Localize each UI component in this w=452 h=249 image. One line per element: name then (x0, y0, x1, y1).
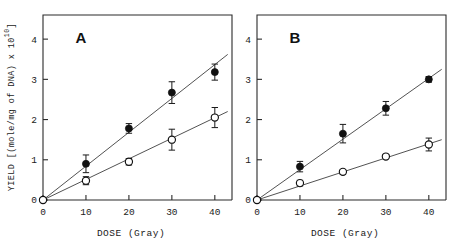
y-tick-label: 0 (245, 195, 251, 206)
data-point-filled (168, 89, 175, 96)
x-tick-label: 20 (337, 207, 349, 218)
plot-frame (43, 15, 232, 200)
y-tick-label: 3 (31, 75, 37, 86)
y-tick-label: 1 (245, 155, 251, 166)
x-tick-label: 20 (123, 207, 135, 218)
data-point-open (382, 153, 389, 160)
panel-b-x-axis-title: DOSE (Gray) (238, 228, 452, 239)
panel-a-plot: 01234010203040A (24, 0, 238, 249)
data-point-open (82, 177, 89, 184)
x-tick-label: 40 (423, 207, 435, 218)
y-tick-label: 4 (245, 35, 251, 46)
data-point-filled (296, 163, 303, 170)
y-axis-label-container: YIELD [(mole/mg of DNA) x 1010] (0, 0, 24, 215)
data-point-open (125, 158, 132, 165)
panel-a: 01234010203040A DOSE (Gray) (24, 0, 238, 249)
y-tick-label: 4 (31, 35, 37, 46)
data-point-filled (425, 76, 432, 83)
y-tick-label: 1 (31, 155, 37, 166)
data-point-filled (382, 105, 389, 112)
y-axis-label: YIELD [(mole/mg of DNA) x 1010] (8, 23, 17, 191)
panel-letter: A (76, 29, 87, 46)
x-tick-label: 0 (254, 207, 260, 218)
fit-line-filled-circles (257, 69, 442, 200)
data-point-filled (211, 69, 218, 76)
y-tick-label: 2 (245, 115, 251, 126)
series-filled-circles (40, 64, 219, 203)
fit-line-open-circles (257, 140, 442, 200)
data-point-open (425, 141, 432, 148)
panel-b-plot: 01234010203040B (238, 0, 452, 249)
x-tick-label: 30 (380, 207, 392, 218)
y-tick-label: 0 (31, 195, 37, 206)
panel-b: 01234010203040B DOSE (Gray) (238, 0, 452, 249)
plot-frame (257, 15, 446, 200)
data-point-filled (82, 160, 89, 167)
figure-container: YIELD [(mole/mg of DNA) x 1010] 01234010… (0, 0, 452, 249)
y-tick-label: 2 (31, 115, 37, 126)
x-tick-label: 10 (294, 207, 306, 218)
series-open-circles (253, 138, 432, 204)
data-point-open (168, 136, 175, 143)
x-tick-label: 40 (209, 207, 221, 218)
data-point-open (39, 196, 46, 203)
data-point-open (211, 114, 218, 121)
x-tick-label: 10 (80, 207, 92, 218)
data-point-filled (125, 125, 132, 132)
panel-letter: B (290, 29, 301, 46)
fit-line-filled-circles (43, 54, 228, 200)
x-tick-label: 30 (166, 207, 178, 218)
data-point-filled (339, 130, 346, 137)
data-point-open (339, 168, 346, 175)
y-axis-label-exponent: 10 (4, 29, 11, 38)
y-tick-label: 3 (245, 75, 251, 86)
x-tick-label: 0 (40, 207, 46, 218)
fit-line-open-circles (43, 112, 228, 200)
panel-a-x-axis-title: DOSE (Gray) (24, 228, 238, 239)
data-point-open (296, 180, 303, 187)
data-point-open (253, 196, 260, 203)
